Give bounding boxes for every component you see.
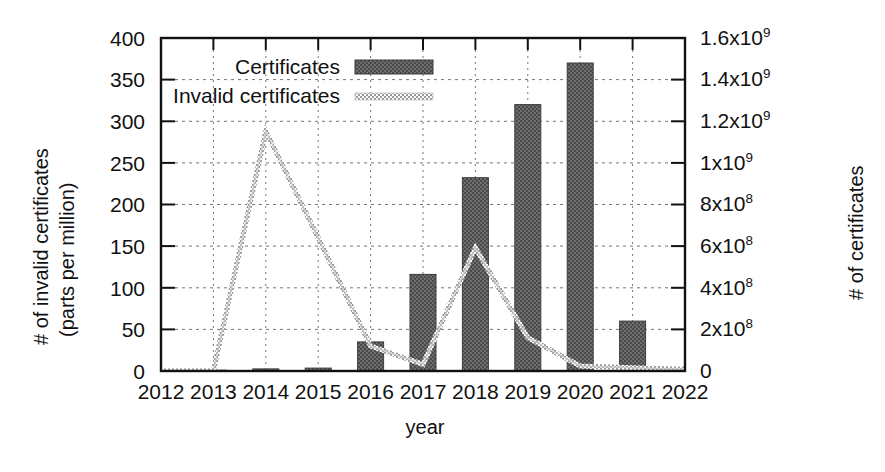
ytick-left-400: 400 bbox=[30, 28, 145, 49]
legend-swatch-certificates bbox=[355, 60, 433, 74]
ytick-right-1e9: 1x109 bbox=[700, 152, 753, 173]
xtick-2013: 2013 bbox=[183, 381, 243, 402]
xtick-2018: 2018 bbox=[445, 381, 505, 402]
xtick-2014: 2014 bbox=[236, 381, 296, 402]
legend-label-invalid-certificates: Invalid certificates bbox=[140, 85, 340, 106]
ytick-right-1p6e9-exp: 9 bbox=[763, 25, 770, 40]
ytick-right-4e8-base: 4x10 bbox=[700, 276, 746, 299]
ytick-right-1p6e9-base: 1.6x10 bbox=[700, 26, 763, 49]
bar-2021 bbox=[620, 321, 646, 371]
xtick-2017: 2017 bbox=[393, 381, 453, 402]
legend-swatch-invalid-certificates bbox=[355, 93, 433, 100]
ytick-right-6e8-base: 6x10 bbox=[700, 234, 746, 257]
chart-figure: 0 50 100 150 200 250 300 350 400 0 2x108… bbox=[0, 0, 885, 472]
ytick-right-1p6e9: 1.6x109 bbox=[700, 27, 771, 48]
ytick-right-8e8: 8x108 bbox=[700, 193, 753, 214]
xtick-2012: 2012 bbox=[131, 381, 191, 402]
x-axis-title: year bbox=[406, 416, 445, 438]
xtick-2019: 2019 bbox=[498, 381, 558, 402]
ytick-left-0: 0 bbox=[30, 361, 145, 382]
ytick-right-0-value: 0 bbox=[700, 359, 712, 382]
bar-2017 bbox=[410, 274, 436, 371]
ytick-right-8e8-exp: 8 bbox=[746, 191, 753, 206]
ytick-right-1p2e9-base: 1.2x10 bbox=[700, 109, 763, 132]
ytick-right-1e9-base: 1x10 bbox=[700, 151, 746, 174]
bar-2020 bbox=[567, 63, 593, 371]
y-axis-left-title-line1: # of invalid certificates bbox=[30, 148, 52, 345]
xtick-2022: 2022 bbox=[655, 381, 715, 402]
ytick-right-1p2e9: 1.2x109 bbox=[700, 110, 771, 131]
ytick-right-2e8-exp: 8 bbox=[746, 316, 753, 331]
ytick-right-2e8: 2x108 bbox=[700, 318, 753, 339]
ytick-right-0: 0 bbox=[700, 360, 712, 381]
ytick-left-350: 350 bbox=[30, 69, 145, 90]
bar-2019 bbox=[515, 105, 541, 371]
legend-label-certificates: Certificates bbox=[140, 56, 340, 77]
xtick-2020: 2020 bbox=[550, 381, 610, 402]
ytick-right-1p2e9-exp: 9 bbox=[763, 108, 770, 123]
xtick-2016: 2016 bbox=[341, 381, 401, 402]
ytick-right-6e8-exp: 8 bbox=[746, 233, 753, 248]
ytick-right-4e8-exp: 8 bbox=[746, 275, 753, 290]
ytick-right-1p4e9: 1.4x109 bbox=[700, 68, 771, 89]
xtick-2015: 2015 bbox=[288, 381, 348, 402]
y-axis-right-title: # of certificates bbox=[845, 165, 867, 300]
ytick-right-4e8: 4x108 bbox=[700, 277, 753, 298]
ytick-right-8e8-base: 8x10 bbox=[700, 192, 746, 215]
ytick-left-300: 300 bbox=[30, 111, 145, 132]
ytick-right-1p4e9-exp: 9 bbox=[763, 66, 770, 81]
ytick-right-6e8: 6x108 bbox=[700, 235, 753, 256]
ytick-right-2e8-base: 2x10 bbox=[700, 317, 746, 340]
bar-2018 bbox=[462, 178, 488, 371]
xtick-2021: 2021 bbox=[603, 381, 663, 402]
ytick-right-1e9-exp: 9 bbox=[746, 150, 753, 165]
ytick-right-1p4e9-base: 1.4x10 bbox=[700, 67, 763, 90]
y-axis-left-title-line2: (parts per million) bbox=[56, 183, 78, 337]
